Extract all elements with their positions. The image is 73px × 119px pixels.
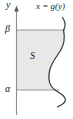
figure-region-s: y β α S x = g(y) <box>0 0 73 119</box>
curve-equation-label: x = g(y) <box>36 2 65 11</box>
figure-canvas <box>0 0 73 119</box>
tick-label-alpha: α <box>5 84 10 94</box>
shaded-region-s <box>17 30 65 90</box>
tick-label-beta: β <box>5 24 10 34</box>
y-axis-arrowhead <box>14 6 19 12</box>
region-label-s: S <box>30 51 35 61</box>
y-axis-label: y <box>6 0 10 10</box>
